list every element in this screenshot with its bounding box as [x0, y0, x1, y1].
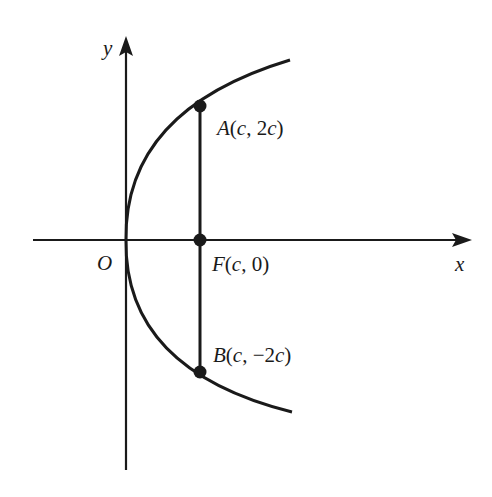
point-a: [194, 100, 207, 113]
point-b-label: B(c, −2c): [213, 345, 291, 366]
point-f: [194, 234, 207, 247]
x-axis-label: x: [455, 254, 464, 275]
parabola-diagram: [0, 0, 492, 497]
origin-label: O: [97, 253, 112, 274]
point-b: [194, 366, 207, 379]
point-f-label: F(c, 0): [212, 254, 269, 275]
y-axis-label: y: [103, 38, 112, 59]
point-a-label: A(c, 2c): [217, 118, 283, 139]
